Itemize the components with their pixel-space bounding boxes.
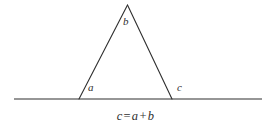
equation-left-term: c bbox=[117, 109, 123, 123]
angle-label-a: a bbox=[88, 82, 94, 93]
angle-label-b: b bbox=[123, 16, 129, 27]
angle-label-c: c bbox=[177, 82, 182, 93]
equation-plus-sign: + bbox=[138, 109, 147, 123]
equation-caption: c=a+b bbox=[0, 109, 271, 124]
equation-equals-sign: = bbox=[123, 109, 132, 123]
geometry-figure: a b c c=a+b bbox=[0, 0, 271, 130]
equation-second-addend: b bbox=[148, 109, 155, 123]
